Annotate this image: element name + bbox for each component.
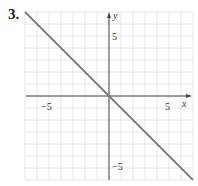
x-tick-5: 5	[165, 101, 170, 112]
y-axis-label: y	[112, 10, 118, 21]
y-axis-arrow-icon	[107, 12, 111, 18]
y-tick-5: 5	[112, 31, 117, 42]
x-tick-neg5: −5	[41, 101, 52, 112]
x-axis-label: x	[181, 98, 187, 109]
x-axis-arrow-icon	[186, 94, 192, 98]
y-tick-neg5: −5	[112, 161, 123, 172]
coordinate-plane: x y −5 5 5 −5	[0, 0, 198, 186]
